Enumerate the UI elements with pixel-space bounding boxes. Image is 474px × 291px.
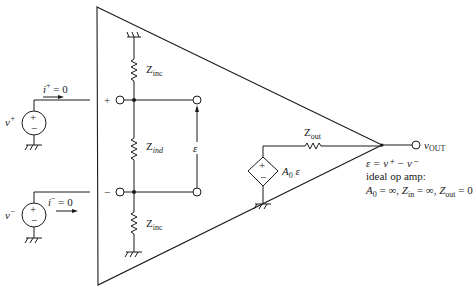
zinc-top-resistor-icon bbox=[131, 57, 137, 83]
ground-icon bbox=[125, 252, 142, 257]
dep-source-plus-sign: + bbox=[259, 159, 265, 171]
epsilon-minus-terminal bbox=[193, 188, 201, 196]
v-plus-label: v+ bbox=[5, 114, 15, 128]
v-minus-label: v− bbox=[5, 207, 15, 221]
arrow-right-icon bbox=[72, 209, 78, 213]
minus-input-terminal bbox=[116, 188, 124, 196]
i-minus-label: i− = 0 bbox=[48, 194, 73, 208]
epsilon-plus-terminal bbox=[193, 96, 201, 104]
zout-label: Zout bbox=[304, 126, 322, 141]
plus-terminal-sign: + bbox=[104, 94, 110, 106]
source-minus-sign: − bbox=[31, 214, 37, 226]
zinc-bottom-resistor-icon bbox=[131, 210, 137, 236]
v-minus-source: + − v− i− = 0 bbox=[5, 192, 90, 243]
ground-icon bbox=[25, 145, 42, 150]
source-minus-sign: − bbox=[31, 122, 37, 134]
dep-source-minus-sign: − bbox=[260, 171, 266, 183]
plus-input-terminal bbox=[116, 96, 124, 104]
node-dot bbox=[132, 98, 136, 102]
node-dot bbox=[132, 190, 136, 194]
arrow-up-icon bbox=[195, 105, 199, 112]
minus-terminal-sign: − bbox=[104, 186, 110, 198]
arrow-right-icon bbox=[58, 95, 64, 99]
zinc-bottom-label: Zinc bbox=[146, 217, 163, 232]
gain-label: A0 ε bbox=[281, 165, 300, 180]
epsilon-label: ε bbox=[193, 142, 198, 154]
ideal-op-amp-heading: ideal op amp: bbox=[366, 170, 426, 182]
output-terminal bbox=[412, 141, 420, 149]
ground-icon bbox=[127, 32, 141, 37]
i-plus-label: i+ = 0 bbox=[43, 81, 68, 95]
zout-resistor-icon bbox=[303, 143, 323, 149]
op-amp-model-diagram: + − v+ i+ = 0 + − v− i− = 0 bbox=[0, 0, 474, 291]
ground-icon bbox=[25, 238, 42, 243]
zind-resistor-icon bbox=[131, 136, 137, 162]
v-out-label: vOUT bbox=[424, 139, 445, 153]
epsilon-definition: ε = v⁺ − v⁻ bbox=[366, 157, 419, 169]
v-plus-source: + − v+ i+ = 0 bbox=[5, 81, 90, 150]
zind-label: Zind bbox=[146, 140, 164, 155]
ideal-op-amp-conditions: A0 = ∞, Zin = ∞, Zout = 0 bbox=[365, 184, 473, 199]
zinc-top-label: Zinc bbox=[146, 63, 163, 78]
